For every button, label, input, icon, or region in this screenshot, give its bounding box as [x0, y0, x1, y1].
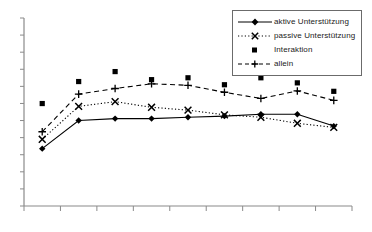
- series-3: [38, 80, 337, 136]
- legend-key-square-icon: [236, 43, 274, 57]
- chart-figure: aktive Unterstützung passive Unterstützu…: [0, 0, 372, 232]
- legend-item-passive-unterstuetzung: passive Unterstützung: [236, 29, 357, 43]
- legend-key-solid-diamond-icon: [236, 15, 274, 29]
- legend-label-interaktion: Interaktion: [274, 43, 312, 57]
- chart-series-layer: [38, 69, 337, 152]
- legend-label-allein: allein: [274, 57, 293, 71]
- legend-label-passive-unterstuetzung: passive Unterstützung: [274, 29, 355, 43]
- legend-label-aktive-unterstuetzung: aktive Unterstützung: [274, 15, 349, 29]
- chart-legend: aktive Unterstützung passive Unterstützu…: [232, 10, 362, 76]
- legend-key-dashed-plus-icon: [236, 57, 274, 71]
- legend-item-aktive-unterstuetzung: aktive Unterstützung: [236, 15, 357, 29]
- legend-item-interaktion: Interaktion: [236, 43, 357, 57]
- legend-item-allein: allein: [236, 57, 357, 71]
- series-0: [39, 111, 337, 152]
- legend-key-dotted-x-icon: [236, 29, 274, 43]
